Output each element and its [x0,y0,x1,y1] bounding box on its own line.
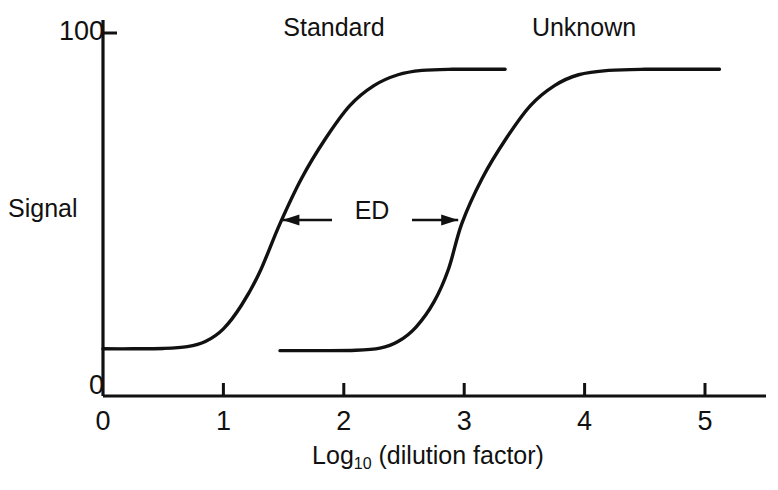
ed-arrow-head [441,214,458,225]
y-axis-title: Signal [8,196,78,221]
y-axis-label-100: 100 [14,18,104,45]
x-tick-label-3: 3 [434,408,494,435]
series-label-unknown: Unknown [494,15,674,40]
x-axis-title: Log10 (dilution factor) [228,443,628,468]
x-tick-label-1: 1 [193,408,253,435]
x-axis-title-subscript: 10 [354,455,372,472]
x-axis-ticks [223,383,705,396]
x-axis-title-base: Log [312,441,354,469]
chart-figure: 100 0 Signal 012345 Log10 (dilution fact… [0,0,778,490]
x-tick-label-0: 0 [73,408,133,435]
x-tick-label-2: 2 [314,408,374,435]
x-tick-label-4: 4 [555,408,615,435]
x-tick-label-5: 5 [675,408,735,435]
x-axis-title-rest: (dilution factor) [379,441,544,469]
y-axis-label-0: 0 [14,372,104,399]
series-label-standard: Standard [244,15,424,40]
ed-annotation-label: ED [332,198,412,223]
curve-standard [103,69,505,349]
